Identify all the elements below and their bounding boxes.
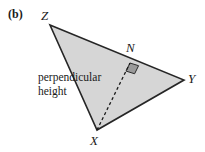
part-label: (b) xyxy=(8,8,23,20)
vertex-label-y: Y xyxy=(188,72,195,85)
triangle-diagram-svg xyxy=(0,0,205,152)
vertex-label-z: Z xyxy=(41,9,48,22)
vertex-label-x: X xyxy=(90,134,98,147)
annotation-line-1: perpendicular xyxy=(38,71,101,85)
perpendicular-height-annotation: perpendicular height xyxy=(38,71,101,98)
geometry-figure: (b) Z Y X N perpendicular height xyxy=(0,0,205,152)
vertex-label-n: N xyxy=(126,41,135,54)
annotation-line-2: height xyxy=(38,85,101,99)
